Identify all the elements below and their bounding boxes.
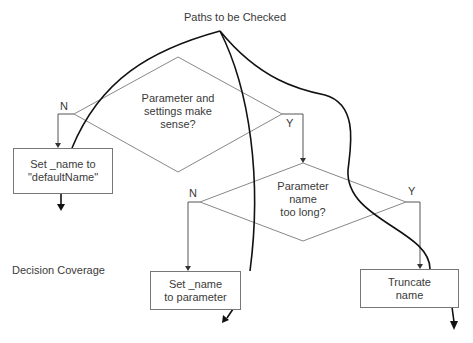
decision-1-text: Parameter and settings make sense? [118,92,238,131]
decision-2-yes-label: Y [408,185,415,198]
path-curve-2 [220,31,255,271]
action-box-set-default: Set _name to "defaultName" [13,148,113,194]
diagram-title: Paths to be Checked [180,11,290,24]
action-box-set-parameter: Set _name to parameter [150,271,241,310]
decision-2-no-label: N [189,187,197,200]
decision-1-no-label: N [60,100,68,113]
side-label-decision-coverage: Decision Coverage [12,264,105,277]
connector-d1-no [58,114,74,146]
connector-d2-no [188,202,200,269]
decision-2-text: Parameter name too long? [263,180,343,219]
connector-d2-yes [406,202,420,267]
action-box-truncate: Truncate name [360,269,459,308]
decision-1-yes-label: Y [286,117,293,130]
